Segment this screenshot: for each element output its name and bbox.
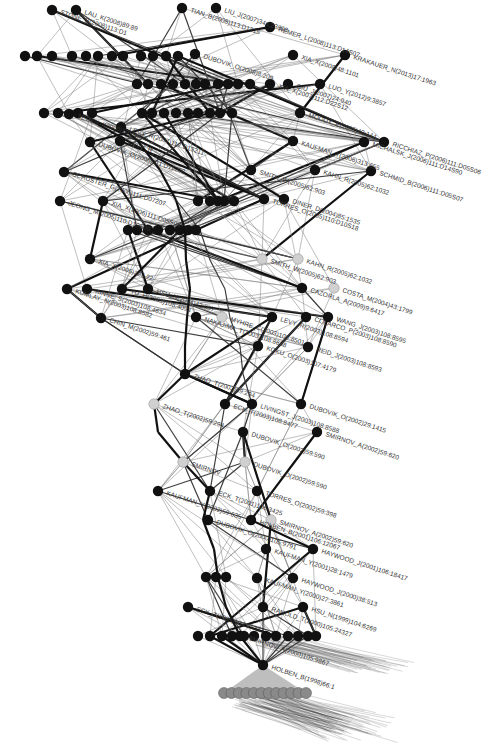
publication-node[interactable] bbox=[359, 137, 369, 147]
publication-node[interactable] bbox=[201, 572, 211, 582]
publication-node[interactable] bbox=[283, 631, 293, 641]
publication-node[interactable] bbox=[246, 165, 256, 175]
publication-node[interactable] bbox=[296, 399, 306, 409]
publication-node[interactable] bbox=[238, 427, 248, 437]
publication-node[interactable] bbox=[297, 283, 307, 293]
publication-node[interactable] bbox=[211, 572, 221, 582]
publication-node[interactable] bbox=[32, 51, 42, 61]
publication-node[interactable] bbox=[205, 631, 215, 641]
publication-node[interactable] bbox=[149, 399, 159, 409]
publication-node[interactable] bbox=[183, 602, 193, 612]
publication-node[interactable] bbox=[132, 79, 142, 89]
publication-node[interactable] bbox=[229, 196, 239, 206]
publication-node[interactable] bbox=[148, 51, 158, 61]
overlapping-label-text bbox=[271, 701, 369, 734]
publication-node[interactable] bbox=[258, 602, 268, 612]
publication-node[interactable] bbox=[47, 51, 57, 61]
publication-node[interactable] bbox=[85, 254, 95, 264]
publication-node[interactable] bbox=[227, 108, 237, 118]
publication-node[interactable] bbox=[143, 79, 153, 89]
publication-node[interactable] bbox=[177, 3, 187, 13]
publication-node[interactable] bbox=[301, 312, 311, 322]
publication-node[interactable] bbox=[47, 5, 57, 15]
publication-node[interactable] bbox=[193, 631, 203, 641]
publication-node[interactable] bbox=[147, 108, 157, 118]
publication-node[interactable] bbox=[213, 79, 223, 89]
publication-node[interactable] bbox=[252, 573, 262, 583]
publication-node[interactable] bbox=[180, 79, 190, 89]
publication-node[interactable] bbox=[200, 79, 210, 89]
publication-node[interactable] bbox=[53, 108, 63, 118]
reference-node[interactable] bbox=[301, 688, 312, 699]
publication-node[interactable] bbox=[288, 136, 298, 146]
publication-node[interactable] bbox=[233, 79, 243, 89]
publication-node[interactable] bbox=[180, 369, 190, 379]
publication-node[interactable] bbox=[293, 254, 303, 264]
publication-node[interactable] bbox=[203, 515, 213, 525]
publication-node[interactable] bbox=[253, 341, 263, 351]
publication-node[interactable] bbox=[217, 631, 227, 641]
publication-node[interactable] bbox=[205, 108, 215, 118]
publication-node[interactable] bbox=[85, 137, 95, 147]
publication-node[interactable] bbox=[62, 284, 72, 294]
publication-node[interactable] bbox=[168, 79, 178, 89]
publication-node[interactable] bbox=[137, 108, 147, 118]
publication-node[interactable] bbox=[178, 457, 188, 467]
publication-node[interactable] bbox=[227, 631, 237, 641]
label-layer: LAU_K(2008)89:89STONE_B(2008)113:D1TIAN_… bbox=[59, 6, 482, 691]
publication-node[interactable] bbox=[293, 631, 303, 641]
publication-node[interactable] bbox=[211, 3, 221, 13]
publication-node[interactable] bbox=[161, 51, 171, 61]
publication-node[interactable] bbox=[308, 544, 318, 554]
publication-node[interactable] bbox=[245, 79, 255, 89]
publication-node[interactable] bbox=[39, 108, 49, 118]
publication-node[interactable] bbox=[252, 486, 262, 496]
publication-node[interactable] bbox=[311, 631, 321, 641]
publication-node[interactable] bbox=[171, 108, 181, 118]
publication-node[interactable] bbox=[173, 51, 183, 61]
publication-node[interactable] bbox=[20, 51, 30, 61]
publication-node[interactable] bbox=[193, 108, 203, 118]
publication-node[interactable] bbox=[118, 51, 128, 61]
publication-node[interactable] bbox=[55, 196, 65, 206]
publication-node[interactable] bbox=[223, 79, 233, 89]
publication-node[interactable] bbox=[215, 108, 225, 118]
publication-node[interactable] bbox=[190, 49, 200, 59]
publication-node[interactable] bbox=[288, 50, 298, 60]
publication-node[interactable] bbox=[191, 225, 201, 235]
publication-node[interactable] bbox=[183, 108, 193, 118]
publication-node[interactable] bbox=[191, 312, 201, 322]
publication-node[interactable] bbox=[153, 225, 163, 235]
publication-node[interactable] bbox=[193, 196, 203, 206]
publication-node[interactable] bbox=[64, 109, 74, 119]
publication-node[interactable] bbox=[219, 196, 229, 206]
publication-node[interactable] bbox=[136, 51, 146, 61]
publication-node[interactable] bbox=[98, 196, 108, 206]
publication-node[interactable] bbox=[267, 312, 277, 322]
publication-node[interactable] bbox=[59, 167, 69, 177]
publication-node[interactable] bbox=[246, 515, 256, 525]
publication-node[interactable] bbox=[107, 51, 117, 61]
publication-node[interactable] bbox=[221, 572, 231, 582]
publication-node[interactable] bbox=[205, 486, 215, 496]
publication-node[interactable] bbox=[191, 79, 201, 89]
publication-node[interactable] bbox=[159, 108, 169, 118]
publication-node[interactable] bbox=[295, 108, 305, 118]
publication-node[interactable] bbox=[93, 51, 103, 61]
publication-node[interactable] bbox=[310, 165, 320, 175]
publication-node[interactable] bbox=[240, 457, 250, 467]
publication-node[interactable] bbox=[271, 631, 281, 641]
publication-node[interactable] bbox=[156, 79, 166, 89]
publication-node[interactable] bbox=[153, 486, 163, 496]
publication-node[interactable] bbox=[96, 313, 106, 323]
publication-node[interactable] bbox=[259, 194, 269, 204]
publication-node[interactable] bbox=[117, 284, 127, 294]
publication-node[interactable] bbox=[81, 51, 91, 61]
publication-node[interactable] bbox=[220, 399, 230, 409]
publication-node[interactable] bbox=[258, 660, 268, 670]
publication-node[interactable] bbox=[67, 51, 77, 61]
publication-node[interactable] bbox=[298, 602, 308, 612]
publication-node[interactable] bbox=[257, 254, 267, 264]
publication-node[interactable] bbox=[288, 573, 298, 583]
publication-node[interactable] bbox=[261, 544, 271, 554]
